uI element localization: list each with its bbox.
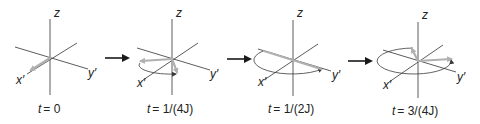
- antiparallel-vectors: [264, 51, 321, 69]
- x-axis: [264, 44, 318, 80]
- x-label: x′: [382, 78, 392, 92]
- time-caption: t= 3/(4J): [392, 104, 438, 118]
- x-label: x′: [15, 73, 25, 87]
- panel-t2: z x′ y′ t= 1/(2J): [254, 6, 341, 116]
- x-label: x′: [136, 76, 146, 90]
- vector-fast: [418, 59, 451, 61]
- x-axis: [389, 45, 443, 82]
- y-axis: [15, 47, 88, 69]
- x-label: x′: [257, 75, 267, 89]
- z-label: z: [175, 6, 182, 20]
- z-label: z: [296, 6, 303, 20]
- panel-t3: z x′ y′ t= 3/(4J): [377, 8, 466, 118]
- vector-slow: [172, 59, 177, 72]
- precession-arc: [139, 63, 176, 74]
- time-caption: t= 1/(4J): [147, 102, 193, 116]
- vector-fast: [141, 59, 172, 61]
- z-label: z: [421, 8, 428, 22]
- j-coupling-evolution-diagram: z x′ y′ t= 0 z x′ y′ t= 1/(4J) z x′ y′ t…: [0, 0, 480, 124]
- y-label: y′: [331, 68, 341, 82]
- z-label: z: [53, 6, 60, 20]
- panel-t1: z x′ y′ t= 1/(4J): [136, 6, 219, 116]
- precession-arc: [254, 51, 322, 74]
- y-label: y′: [456, 70, 466, 84]
- x-axis: [27, 43, 77, 74]
- y-label: y′: [209, 67, 219, 81]
- panel-t0: z x′ y′ t= 0: [15, 6, 97, 116]
- time-caption: t= 0: [38, 102, 61, 116]
- time-caption: t= 1/(2J): [268, 102, 314, 116]
- magnetization-vector: [31, 58, 50, 70]
- y-label: y′: [87, 66, 97, 80]
